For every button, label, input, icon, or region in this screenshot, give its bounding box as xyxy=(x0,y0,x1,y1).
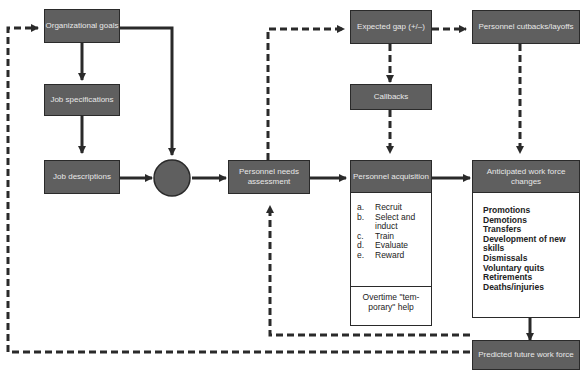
acquisition-steps-list: a.Recruitb.Select andinductc.Traind.Eval… xyxy=(357,203,425,261)
node-personnel-needs-assessment: Personnel needs assessment xyxy=(228,160,310,194)
node-predicted-future-work-force: Predicted future work force xyxy=(472,340,580,370)
changes-list-box: PromotionsDemotionsTransfersDevelopment … xyxy=(472,192,580,318)
node-job-descriptions: Job descriptions xyxy=(44,160,120,194)
node-personnel-acquisition: Personnel acquisition xyxy=(350,160,432,193)
overtime-box: Overtime "tem-porary" help xyxy=(350,286,432,326)
acquisition-step: e.Reward xyxy=(357,251,425,261)
node-expected-gap: Expected gap (+/–) xyxy=(350,10,432,44)
node-anticipated-changes: Anticipated work force changes xyxy=(472,160,580,193)
node-callbacks: Callbacks xyxy=(350,84,432,110)
node-job-specifications: Job specifications xyxy=(44,84,120,116)
acquisition-steps-box: a.Recruitb.Select andinductc.Traind.Eval… xyxy=(350,192,432,288)
changes-list: PromotionsDemotionsTransfersDevelopment … xyxy=(483,206,569,292)
change-item: Development of new skills xyxy=(483,235,569,254)
change-item: Deaths/injuries xyxy=(483,283,569,293)
node-personnel-cutbacks: Personnel cutbacks/layoffs xyxy=(472,10,580,44)
node-organizational-goals: Organizational goals xyxy=(44,9,120,43)
